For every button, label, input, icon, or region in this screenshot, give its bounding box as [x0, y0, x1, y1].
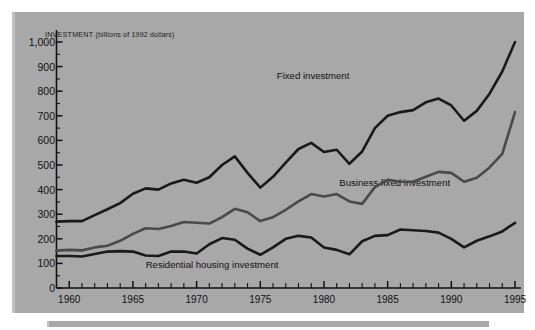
figure-root: INVESTMENT (billions of 1992 dollars) 1,…: [0, 0, 535, 330]
series-line-1: [57, 112, 516, 251]
series-line-0: [57, 42, 516, 222]
footer-bar: [47, 321, 489, 327]
plot-area: INVESTMENT (billions of 1992 dollars) 1,…: [15, 12, 527, 313]
line-chart-svg: [15, 12, 527, 313]
chart-panel: INVESTMENT (billions of 1992 dollars) 1,…: [12, 12, 524, 313]
series-line-2: [57, 223, 516, 257]
